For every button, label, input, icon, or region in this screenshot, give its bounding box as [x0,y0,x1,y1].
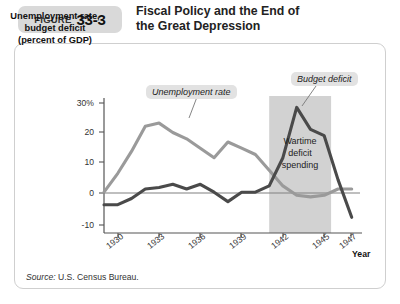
wartime-line1: Wartime [263,136,337,148]
page-title-line2: the Great Depression [136,19,386,34]
y-tick-label-10: 10 [68,157,94,167]
y-tick-label-30: 30% [68,98,94,108]
source-note: Source: U.S. Census Bureau. [26,272,139,282]
wartime-line3: spending [263,160,337,172]
source-prefix: Source: [26,272,56,282]
y-axis-title: Unemployment rate, budget deficit (perce… [6,10,104,46]
y-tick-label-0: 0 [68,188,94,198]
y-tick-label-neg10: -10 [68,220,94,230]
figure-panel: FIGURE 33-3 Fiscal Policy and the End of… [0,0,400,304]
unemployment-rate-callout: Unemployment rate [146,85,237,99]
y-axis-title-line3: (percent of GDP) [6,34,104,46]
wartime-line2: deficit [263,148,337,160]
page-title: Fiscal Policy and the End of the Great D… [136,4,386,34]
budget-deficit-callout: Budget deficit [291,72,358,86]
source-text: U.S. Census Bureau. [56,272,139,282]
page-title-line1: Fiscal Policy and the End of [136,4,386,19]
wartime-annotation: Wartime deficit spending [263,136,337,172]
y-axis-title-line2: budget deficit [6,22,104,34]
y-tick-label-20: 20 [68,127,94,137]
y-axis-title-line1: Unemployment rate, [6,10,104,22]
x-axis-title: Year [352,249,370,259]
